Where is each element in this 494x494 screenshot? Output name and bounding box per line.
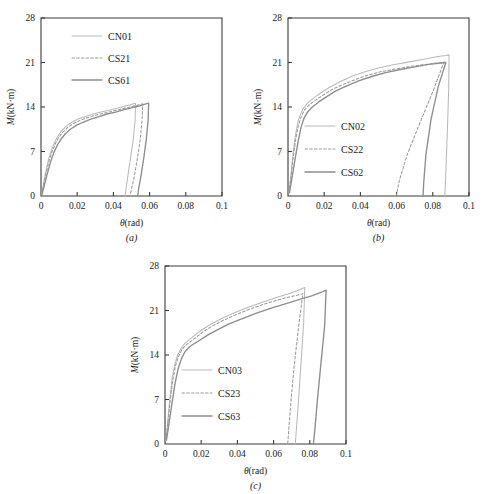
x-tick-label: 0.08 xyxy=(177,201,194,211)
curve-cs62 xyxy=(289,63,445,197)
legend-label-cn01: CN01 xyxy=(108,31,132,42)
y-tick-label: 28 xyxy=(150,261,160,271)
x-tick-label: 0.02 xyxy=(193,449,210,459)
x-tick-label: 0.04 xyxy=(229,449,246,459)
y-tick-label: 28 xyxy=(273,13,283,23)
y-tick-label: 21 xyxy=(150,306,160,316)
x-tick-label: 0.04 xyxy=(352,201,369,211)
x-tick-label: 0.08 xyxy=(301,449,318,459)
subplot-b: 00.020.040.060.080.107142128θ(rad)M(kN·m… xyxy=(247,0,494,247)
curve-cs21 xyxy=(42,104,143,196)
subplot-c: 00.020.040.060.080.107142128θ(rad)M(kN·m… xyxy=(124,248,384,494)
y-tick-label: 0 xyxy=(277,191,282,201)
x-tick-label: 0.06 xyxy=(141,201,158,211)
curve-cs22 xyxy=(289,62,444,196)
curve-cs63 xyxy=(166,290,326,444)
plot-frame xyxy=(288,18,469,196)
x-tick-label: 0.02 xyxy=(69,201,86,211)
y-tick-label: 7 xyxy=(30,147,35,157)
legend-label-cs22: CS22 xyxy=(341,144,363,155)
y-tick-label: 14 xyxy=(150,350,160,360)
y-tick-label: 0 xyxy=(154,439,159,449)
y-axis-label: M(kN·m) xyxy=(6,89,17,126)
x-tick-label: 0.1 xyxy=(340,449,352,459)
panel-caption: (a) xyxy=(126,232,138,244)
x-tick-label: 0 xyxy=(163,449,168,459)
y-tick-label: 21 xyxy=(273,58,283,68)
y-tick-label: 7 xyxy=(277,147,282,157)
y-axis-label: M(kN·m) xyxy=(130,337,141,374)
legend-label-cn03: CN03 xyxy=(218,365,242,376)
legend-label-cs63: CS63 xyxy=(218,411,240,422)
panel-caption: (b) xyxy=(373,232,385,244)
legend-label-cs62: CS62 xyxy=(341,167,363,178)
curve-cn02 xyxy=(289,55,449,196)
panel-caption: (c) xyxy=(250,480,262,492)
x-axis-label: θ(rad) xyxy=(120,218,143,229)
plot-c: 00.020.040.060.080.107142128θ(rad)M(kN·m… xyxy=(124,248,384,494)
plot-b: 00.020.040.060.080.107142128θ(rad)M(kN·m… xyxy=(247,0,494,247)
y-tick-label: 14 xyxy=(26,102,36,112)
y-tick-label: 7 xyxy=(154,395,159,405)
x-tick-label: 0.1 xyxy=(463,201,475,211)
legend-label-cs23: CS23 xyxy=(218,388,240,399)
plot-a: 00.020.040.060.080.107142128θ(rad)M(kN·m… xyxy=(0,0,247,247)
y-tick-label: 14 xyxy=(273,102,283,112)
legend-label-cs61: CS61 xyxy=(108,75,130,86)
x-axis-label: θ(rad) xyxy=(367,218,390,229)
x-tick-label: 0 xyxy=(286,201,291,211)
x-tick-label: 0.04 xyxy=(105,201,122,211)
legend-label-cs21: CS21 xyxy=(108,53,130,64)
y-tick-label: 28 xyxy=(26,13,36,23)
y-tick-label: 21 xyxy=(26,58,36,68)
y-tick-label: 0 xyxy=(30,191,35,201)
x-tick-label: 0.02 xyxy=(316,201,333,211)
x-axis-label: θ(rad) xyxy=(244,466,267,477)
y-axis-label: M(kN·m) xyxy=(253,89,264,126)
x-tick-label: 0.08 xyxy=(424,201,441,211)
legend-label-cn02: CN02 xyxy=(341,121,365,132)
plot-frame xyxy=(41,18,222,196)
x-tick-label: 0 xyxy=(39,201,44,211)
subplot-a: 00.020.040.060.080.107142128θ(rad)M(kN·m… xyxy=(0,0,247,247)
x-tick-label: 0.06 xyxy=(265,449,282,459)
x-tick-label: 0.1 xyxy=(216,201,228,211)
x-tick-label: 0.06 xyxy=(388,201,405,211)
